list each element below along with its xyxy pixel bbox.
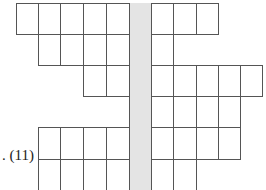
grid-cell[interactable]	[218, 65, 241, 97]
grid-cell[interactable]	[196, 127, 219, 160]
grid-cell[interactable]	[38, 127, 61, 160]
grid-cell[interactable]	[218, 127, 241, 160]
grid-cell[interactable]	[16, 3, 39, 35]
grid-cell[interactable]	[60, 34, 84, 66]
grid-cell[interactable]	[83, 159, 107, 190]
grid-cell[interactable]	[151, 159, 174, 190]
grid-cell[interactable]	[173, 65, 197, 97]
grid-cell[interactable]	[151, 3, 174, 35]
grid-cell[interactable]	[151, 96, 174, 128]
grid-cell[interactable]	[60, 127, 84, 160]
grid-cell[interactable]	[106, 127, 130, 160]
grid-cell[interactable]	[151, 34, 174, 66]
grid-cell[interactable]	[106, 65, 130, 97]
grid-cell[interactable]	[151, 65, 174, 97]
grid-cell[interactable]	[196, 65, 219, 97]
grid-cell[interactable]	[83, 3, 107, 35]
grid-cell[interactable]	[38, 3, 61, 35]
grid-cell[interactable]	[60, 159, 84, 190]
grid-cell[interactable]	[240, 65, 263, 97]
grid-cell[interactable]	[106, 3, 130, 35]
grid-cell[interactable]	[106, 159, 130, 190]
grid-cell[interactable]	[83, 65, 107, 97]
grid-cell[interactable]	[173, 3, 197, 35]
clue-length-label: . (11)	[2, 147, 34, 164]
grid-cell[interactable]	[83, 127, 107, 160]
grid-cell[interactable]	[196, 3, 219, 35]
grid-cell[interactable]	[60, 3, 84, 35]
grid-cell[interactable]	[151, 127, 174, 160]
grid-cell[interactable]	[173, 96, 197, 128]
grid-cell[interactable]	[83, 34, 107, 66]
grid-cell[interactable]	[196, 96, 219, 128]
grid-cell[interactable]	[173, 127, 197, 160]
grid-cell[interactable]	[106, 34, 130, 66]
shaded-column	[129, 3, 152, 190]
grid-cell[interactable]	[38, 159, 61, 190]
grid-cell[interactable]	[173, 159, 197, 190]
grid-cell[interactable]	[38, 34, 61, 66]
grid-cell[interactable]	[218, 96, 241, 128]
